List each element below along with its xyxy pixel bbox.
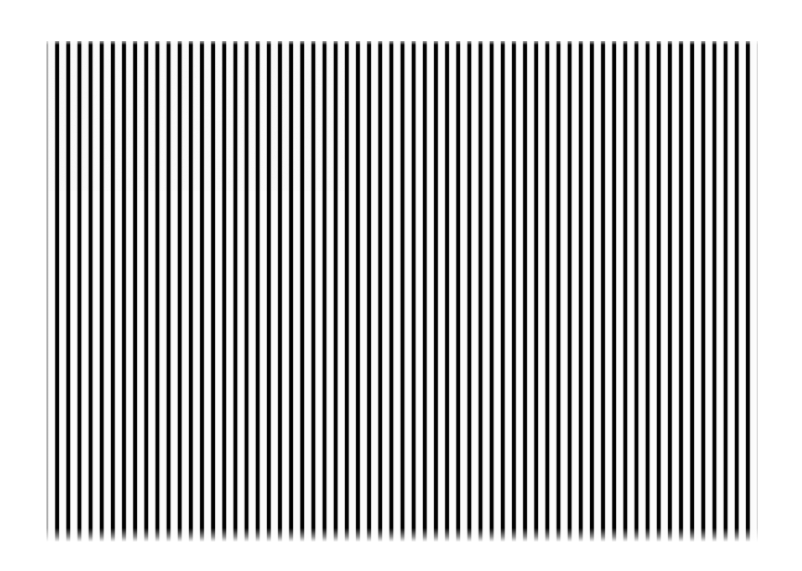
stripe-bars: [46, 41, 758, 542]
image-canvas: [0, 0, 802, 571]
stripe-pattern-field: [46, 41, 758, 542]
